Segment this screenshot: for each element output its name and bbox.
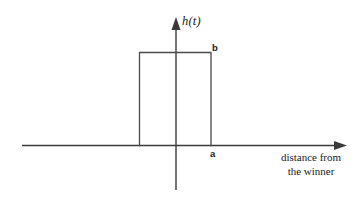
x-axis-arrowhead <box>334 141 347 150</box>
pulse-right-edge-label: a <box>210 149 215 159</box>
y-axis-arrowhead <box>172 17 181 30</box>
pulse-height-label: b <box>212 43 218 53</box>
x-axis-label-line-1: distance from <box>269 151 353 165</box>
pulse-curve <box>140 53 212 146</box>
x-axis-label: distance from the winner <box>269 151 353 179</box>
y-axis-label: h(t) <box>182 15 201 28</box>
x-axis-label-line-2: the winner <box>269 165 353 179</box>
